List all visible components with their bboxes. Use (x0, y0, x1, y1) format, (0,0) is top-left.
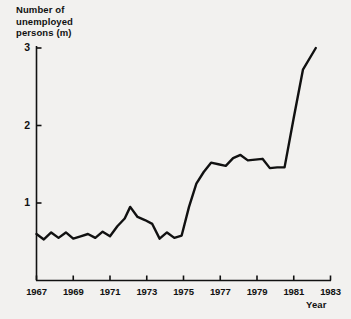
x-tick-label: 1977 (203, 286, 237, 297)
x-tick-label: 1971 (93, 286, 127, 297)
x-tick-label: 1969 (56, 286, 90, 297)
x-tick-label: 1975 (167, 286, 201, 297)
y-tick-label: 3 (12, 41, 30, 53)
y-tick-label: 1 (12, 196, 30, 208)
x-tick-label: 1983 (314, 286, 348, 297)
x-tick-label: 1979 (240, 286, 274, 297)
x-tick-label: 1981 (277, 286, 311, 297)
x-tick-label: 1973 (130, 286, 164, 297)
data-series-line (37, 48, 316, 239)
plot-area (0, 0, 351, 319)
unemployment-line-chart: Number of unemployed persons (m) Year 12… (0, 0, 351, 319)
x-tick-label: 1967 (20, 286, 54, 297)
y-tick-label: 2 (12, 119, 30, 131)
axis-lines (36, 46, 331, 281)
